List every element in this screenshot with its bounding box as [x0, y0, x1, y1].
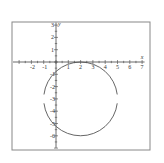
x-tick-label: 2 — [79, 64, 82, 70]
plot-frame — [12, 22, 150, 150]
x-tick-label: -2 — [30, 64, 35, 70]
y-tick-label: 3 — [51, 22, 54, 28]
x-tick-label: -1 — [42, 64, 47, 70]
y-tick-label: -4 — [50, 108, 55, 114]
x-tick-label: 4 — [104, 64, 107, 70]
x-axis-label: x — [140, 54, 144, 60]
x-tick-label: 5 — [116, 64, 119, 70]
y-tick-label: -3 — [50, 96, 55, 102]
x-tick-label: 6 — [128, 64, 131, 70]
coordinate-graph: -2-11234567321-1-2-3-4-5-6xy — [0, 0, 164, 163]
y-tick-label: -2 — [50, 84, 55, 90]
y-tick-label: 1 — [51, 47, 54, 53]
y-tick-label: -6 — [50, 133, 55, 139]
y-axis-label: y — [57, 21, 61, 27]
y-tick-label: 2 — [51, 34, 54, 40]
x-tick-label: 7 — [141, 64, 144, 70]
